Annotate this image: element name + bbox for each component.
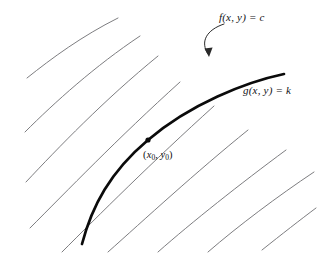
level-curve-8 [208, 172, 314, 252]
objective-function-text: f(x, y) = c [219, 11, 265, 23]
level-curve-9 [262, 208, 316, 250]
lagrange-multiplier-figure: f(x, y) = c g(x, y) = k (x0, y0) [0, 0, 318, 254]
level-curves-group [25, 18, 316, 252]
objective-function-label: f(x, y) = c [219, 12, 265, 23]
level-curve-3 [26, 56, 158, 182]
tangency-comma: , [155, 149, 158, 160]
level-curve-1 [27, 18, 118, 78]
tangency-point-group [145, 137, 150, 142]
objective-pointer-arrowhead-icon [204, 47, 212, 57]
constraint-function-label: g(x, y) = k [243, 85, 291, 96]
constraint-function-text: g(x, y) = k [243, 84, 291, 96]
pointer-arrow-group [204, 24, 224, 57]
constraint-curve-group [82, 74, 284, 244]
figure-canvas [0, 0, 318, 254]
tangency-point-dot [145, 137, 150, 142]
constraint-curve-g [82, 74, 284, 244]
tangency-close-paren: ) [169, 149, 173, 160]
level-curve-6 [108, 130, 248, 252]
tangency-point-label: (x0, y0) [143, 150, 173, 162]
level-curve-7 [158, 150, 286, 252]
level-curve-2 [25, 36, 140, 132]
